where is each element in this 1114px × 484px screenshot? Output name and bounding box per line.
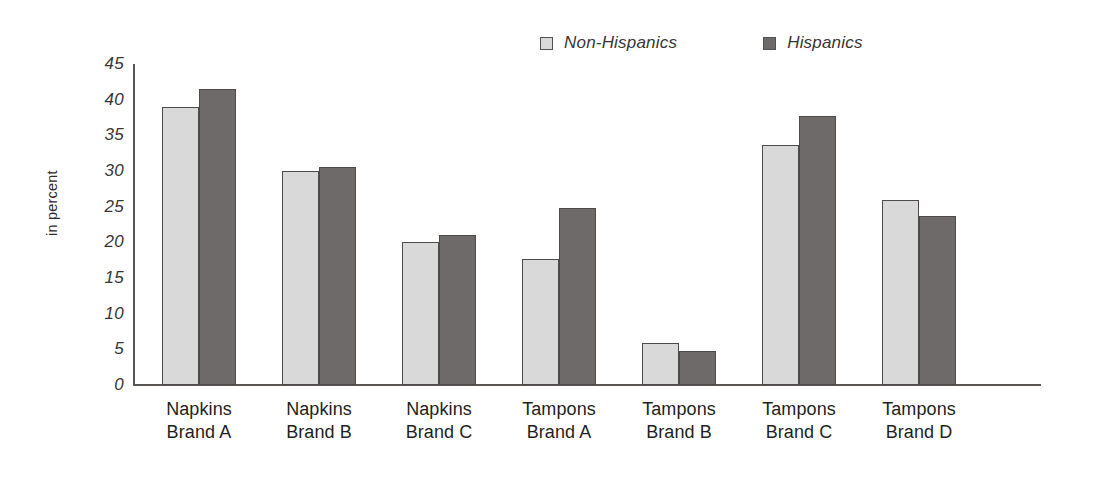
x-axis-category-labels: NapkinsBrand ANapkinsBrand BNapkinsBrand… [0,398,1114,468]
x-axis-label-group-7: TamponsBrand D [882,398,956,444]
x-axis-label-group-5: TamponsBrand B [642,398,716,444]
x-axis-label-group-2: NapkinsBrand B [286,398,352,444]
x-axis-label-group-6: TamponsBrand C [762,398,836,444]
bar-non-hispanics-group-7 [882,200,919,385]
x-axis-label-group-1: NapkinsBrand A [166,398,232,444]
bar-non-hispanics-group-3 [402,242,439,385]
x-axis-label-group-4: TamponsBrand A [522,398,596,444]
bar-non-hispanics-group-6 [762,145,799,385]
bar-chart-figure: Non-Hispanics Hispanics in percent 45403… [0,0,1114,484]
bar-non-hispanics-group-4 [522,259,559,385]
bar-hispanics-group-2 [319,167,356,385]
bar-hispanics-group-7 [919,216,956,385]
bar-hispanics-group-3 [439,235,476,385]
bar-hispanics-group-1 [199,89,236,385]
bar-hispanics-group-5 [679,351,716,385]
bar-hispanics-group-4 [559,208,596,385]
plot-area: 454035302520151050 NapkinsBrand ANapkins… [0,0,1114,484]
bar-non-hispanics-group-1 [162,107,199,385]
bar-hispanics-group-6 [799,116,836,385]
x-axis-label-group-3: NapkinsBrand C [406,398,473,444]
bar-non-hispanics-group-5 [642,343,679,385]
bar-non-hispanics-group-2 [282,171,319,385]
